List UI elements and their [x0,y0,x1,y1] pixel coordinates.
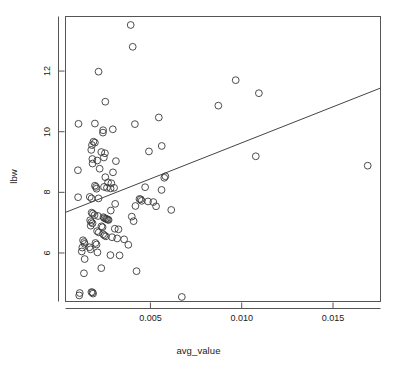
data-point [125,241,132,248]
data-point [133,268,140,275]
x-tick-label: 0.005 [139,313,162,323]
data-point [107,252,114,259]
data-point [364,162,371,169]
x-axis-tick-marks [150,303,333,309]
data-point [107,207,114,214]
data-point [92,120,99,127]
data-point [155,114,162,121]
data-point [158,187,165,194]
data-point [215,102,222,109]
regression-line [66,88,381,212]
data-point [146,148,153,155]
data-point [109,126,116,133]
y-tick-label: 8 [42,190,52,195]
data-point [86,194,93,201]
scatter-plot-figure: avg_value lbw 0.0050.0100.015 681012 [0,0,397,369]
data-point [116,252,123,259]
data-point [87,246,94,253]
y-tick-label: 12 [42,66,52,76]
data-point [100,154,107,161]
data-point [255,90,262,97]
data-point [75,194,82,201]
data-point [94,249,101,256]
data-point [127,22,134,29]
data-point [88,147,95,154]
data-point [81,270,88,277]
data-point [132,203,139,210]
data-point [110,169,117,176]
data-point [81,256,88,263]
x-axis-title: avg_value [0,345,397,356]
data-point [178,294,185,301]
data-point [130,218,137,225]
data-point-group [75,22,372,301]
data-point [96,165,103,172]
data-point [131,121,138,128]
data-point [75,120,82,127]
data-point [252,153,259,160]
data-point [129,43,136,50]
data-point [78,248,85,255]
y-tick-label: 6 [42,250,52,255]
y-tick-label: 10 [42,127,52,137]
data-point [102,98,109,105]
data-point [232,77,239,84]
y-axis-title: lbw [8,147,19,207]
data-point [142,184,149,191]
data-point [158,143,165,150]
data-point [128,213,135,220]
data-point [102,174,109,181]
data-point [95,68,102,75]
data-point [168,207,175,214]
data-point [98,265,105,272]
x-tick-label: 0.015 [322,313,345,323]
data-point [112,200,119,207]
data-point [113,158,120,165]
data-point [75,167,82,174]
x-tick-label: 0.010 [230,313,253,323]
y-axis-tick-marks [59,71,65,253]
